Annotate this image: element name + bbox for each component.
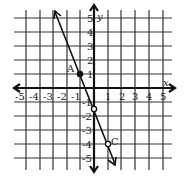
y-tick: -4 — [82, 139, 92, 150]
x-tick: 3 — [132, 91, 138, 102]
y-tick: 1 — [87, 69, 93, 80]
y-tick: -3 — [82, 125, 92, 136]
x-tick: -1 — [71, 91, 81, 102]
y-tick: -5 — [82, 153, 92, 164]
x-tick: -3 — [43, 91, 53, 102]
x-tick: 5 — [160, 91, 166, 102]
x-tick: -2 — [57, 91, 67, 102]
x-axis-label: x — [163, 77, 169, 88]
x-tick: 2 — [119, 91, 125, 102]
point-intercept — [91, 106, 96, 111]
coordinate-graph: A C x y -5 -4 -3 -2 -1 1 2 3 4 5 5 4 3 2… — [0, 0, 187, 195]
point-c — [105, 141, 110, 146]
x-tick: -4 — [29, 91, 39, 102]
y-axis-label: y — [96, 11, 103, 22]
point-a-label: A — [66, 63, 75, 74]
x-tick: -5 — [15, 91, 25, 102]
point-c-label: C — [111, 136, 119, 147]
point-a — [77, 71, 82, 76]
x-tick: 4 — [146, 91, 152, 102]
y-tick: 3 — [87, 41, 93, 52]
y-tick: -2 — [82, 111, 92, 122]
y-tick: 5 — [87, 13, 93, 24]
y-tick: 2 — [87, 55, 93, 66]
y-tick: 4 — [87, 27, 93, 38]
axes — [14, 5, 175, 172]
x-tick: 1 — [105, 91, 111, 102]
y-tick: -1 — [82, 97, 92, 108]
